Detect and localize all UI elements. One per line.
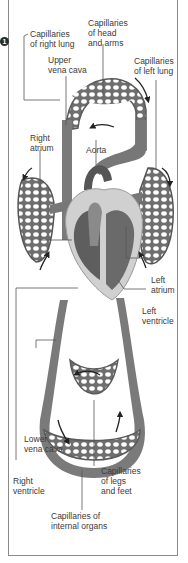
heart [66,189,143,300]
label-left-ventricle: Left ventricle [142,306,174,326]
label-left-atrium: Left atrium [151,275,175,295]
label-capillaries-legs-feet: Capillaries of legs and feet [101,466,141,496]
label-capillaries-left-lung: Capillaries of left lung [134,56,174,76]
head-arms-capillaries [66,79,146,150]
label-aorta: Aorta [86,145,106,155]
label-lower-vena-cava: Lower vena cava [24,434,63,454]
label-capillaries-right-lung: Capillaries of right lung [30,29,74,49]
label-capillaries-internal-organs: Capillaries of internal organs [51,511,107,531]
label-upper-vena-cava: Upper vena cava [48,55,87,75]
label-capillaries-head-arms: Capillaries of head and arms [88,18,128,48]
label-right-ventricle: Right ventricle [13,476,45,496]
label-right-atrium: Right atrium [30,133,54,153]
